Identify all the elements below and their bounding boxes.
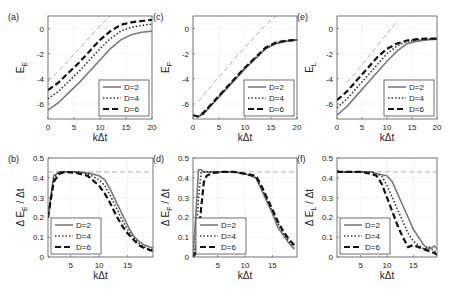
x-tick-label: 10 [95,261,104,270]
y-tick-label: 0.1 [178,233,190,242]
legend-label: D=4 [365,232,380,241]
panel-label: (c) [153,12,164,22]
y-tick-label: 0.2 [322,213,334,222]
legend: D=2D=4D=6 [51,218,101,254]
legend-label: D=4 [221,232,236,241]
x-tick-label: 10 [241,261,250,270]
y-tick-label: -6 [37,100,45,109]
x-tick-label: 15 [408,123,417,132]
x-axis-label: kΔt [380,270,395,281]
legend-label: D=6 [221,243,236,252]
y-tick-label: 0.1 [33,233,45,242]
legend-label: D=6 [269,105,284,114]
y-tick-label: 0.5 [178,154,190,163]
x-tick-label: 10 [383,123,392,132]
x-axis-label: kΔt [238,132,253,143]
x-tick-label: 5 [360,123,365,132]
x-axis-label: kΔt [93,132,108,143]
y-tick-label: -2 [37,50,45,59]
y-tick-label: 0 [329,25,334,34]
x-tick-label: 20 [293,123,302,132]
y-tick-label: 0.3 [33,194,45,203]
x-tick-label: 15 [268,261,277,270]
panel-label: (b) [8,154,19,164]
x-axis-label: kΔt [380,132,395,143]
x-tick-label: 5 [358,261,363,270]
panel-label: (d) [153,154,164,164]
panel-c: 05101520-6-4-20kΔtEF(c)D=2D=4D=6 [153,12,302,143]
legend-label: D=4 [76,232,91,241]
x-tick-label: 5 [217,123,222,132]
legend: D=2D=4D=6 [340,218,390,254]
y-tick-label: 0.2 [33,213,45,222]
x-tick-label: 5 [215,261,220,270]
y-tick-label: 0 [185,25,190,34]
legend-label: D=2 [76,221,91,230]
y-tick-label: 0.2 [178,213,190,222]
legend-label: D=2 [409,83,424,92]
legend-label: D=4 [269,94,284,103]
x-tick-label: 10 [383,261,392,270]
panel-f: 5101500.10.20.30.40.5kΔtΔ EL / Δt(f)D=2D… [297,154,437,281]
y-tick-label: 0.4 [33,174,45,183]
y-tick-label: 0 [185,253,190,262]
legend-label: D=6 [409,105,424,114]
y-tick-label: -2 [182,50,190,59]
x-tick-label: 0 [335,123,340,132]
y-tick-label: 0.1 [322,233,334,242]
legend-label: D=4 [124,94,139,103]
panel-a: 05101520-6-4-20kΔtEE(a)D=2D=4D=6 [8,12,157,143]
legend: D=2D=4D=6 [99,80,149,116]
x-axis-label: kΔt [238,270,253,281]
y-axis-label: EE [15,62,28,74]
y-axis-label: Δ EL / Δt [304,189,317,226]
y-tick-label: -6 [326,100,334,109]
figure-canvas: 05101520-6-4-20kΔtEE(a)D=2D=4D=65101500.… [0,0,456,294]
legend-label: D=6 [76,243,91,252]
x-tick-label: 20 [433,123,442,132]
x-tick-label: 15 [409,261,418,270]
y-tick-label: -4 [326,75,334,84]
y-tick-label: 0.5 [322,154,334,163]
y-tick-label: 0.5 [33,154,45,163]
y-axis-label: Δ EE / Δt [15,188,28,226]
legend: D=2D=4D=6 [384,80,434,116]
panel-b: 5101500.10.20.30.40.5kΔtΔ EE / Δt(b)D=2D… [8,154,153,281]
panel-e: 05101520-6-4-20kΔtEL(e)D=2D=4D=6 [297,12,442,143]
y-tick-label: -4 [37,75,45,84]
legend-label: D=6 [365,243,380,252]
y-tick-label: 0.4 [178,174,190,183]
y-tick-label: 0 [40,25,45,34]
x-tick-label: 0 [46,123,51,132]
y-tick-label: 0 [40,253,45,262]
y-tick-label: 0.4 [322,174,334,183]
x-axis-label: kΔt [93,270,108,281]
y-tick-label: 0.3 [178,194,190,203]
panel-label: (f) [297,154,306,164]
x-tick-label: 5 [68,261,73,270]
legend-label: D=2 [269,83,284,92]
x-tick-label: 15 [267,123,276,132]
legend-label: D=2 [124,83,139,92]
y-tick-label: -2 [326,50,334,59]
y-tick-label: -4 [182,75,190,84]
x-tick-label: 20 [148,123,157,132]
legend-label: D=4 [409,94,424,103]
y-tick-label: -6 [182,100,190,109]
x-tick-label: 10 [96,123,105,132]
y-axis-label: EF [160,62,173,73]
y-tick-label: 0.3 [322,194,334,203]
legend-label: D=6 [124,105,139,114]
x-tick-label: 0 [191,123,196,132]
x-tick-label: 5 [72,123,77,132]
y-axis-label: EL [304,62,317,73]
panel-d: 5101500.10.20.30.40.5kΔtΔ EF / Δt(d)D=2D… [153,154,297,281]
legend: D=2D=4D=6 [244,80,294,116]
y-axis-label: Δ EF / Δt [160,188,173,226]
legend-label: D=2 [365,221,380,230]
x-tick-label: 10 [241,123,250,132]
panel-label: (a) [8,12,19,22]
y-tick-label: 0 [329,253,334,262]
legend-label: D=2 [221,221,236,230]
x-tick-label: 15 [123,261,132,270]
